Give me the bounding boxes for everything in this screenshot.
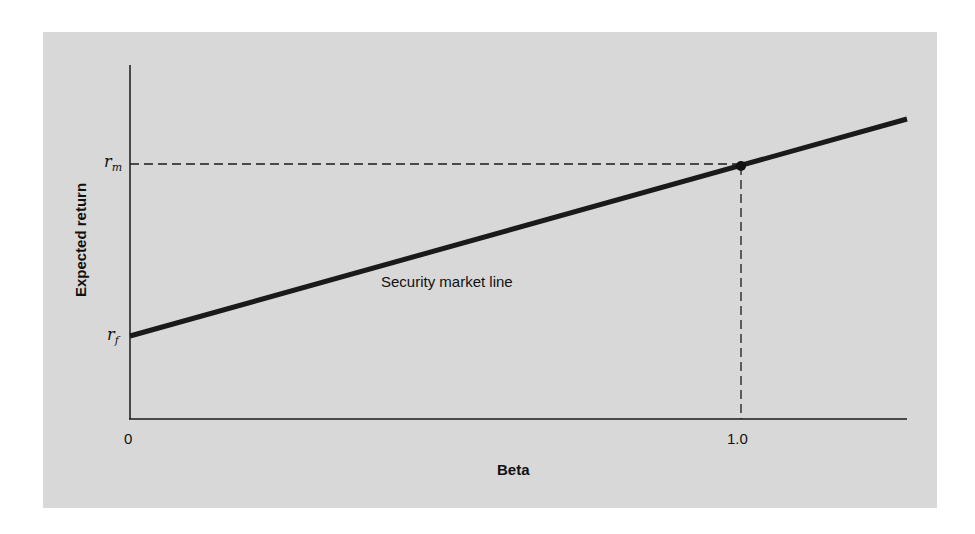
security-market-line	[130, 119, 907, 336]
market-portfolio-point	[736, 161, 746, 171]
sml-plot	[0, 0, 975, 534]
rf-subscript: f	[115, 334, 119, 347]
rf-symbol: r	[107, 325, 115, 344]
rf-tick-label: rf	[107, 325, 119, 347]
y-axis-title: Expected return	[72, 183, 89, 297]
rm-tick-label: rm	[104, 152, 122, 174]
x-axis-title: Beta	[497, 461, 530, 478]
x-tick-0: 0	[124, 430, 132, 447]
x-tick-1: 1.0	[727, 430, 748, 447]
sml-annotation: Security market line	[381, 273, 513, 290]
rm-symbol: r	[104, 152, 112, 171]
rm-subscript: m	[112, 161, 122, 174]
